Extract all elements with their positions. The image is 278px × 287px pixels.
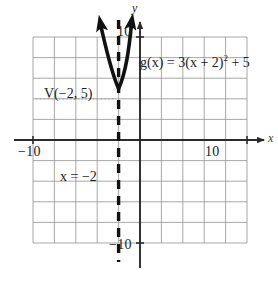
axis-of-symmetry-label: x = −2 bbox=[60, 170, 97, 184]
equation-tail: + 5 bbox=[231, 55, 249, 70]
x-axis-tick-label-positive-ten: 10 bbox=[205, 145, 220, 159]
parabola-figure: y x −10 10 10 −10 V(−2, 5) x = −2 g(x) =… bbox=[0, 0, 278, 287]
function-equation-label: g(x) = 3(x + 2)2 + 5 bbox=[140, 54, 250, 70]
y-axis-tick-label-negative-ten: −10 bbox=[109, 238, 132, 252]
vertex-label: V(−2, 5) bbox=[44, 87, 92, 101]
y-axis-label: y bbox=[132, 2, 137, 14]
equation-prefix: g(x) = 3(x + 2) bbox=[140, 55, 223, 70]
graph-canvas bbox=[0, 0, 278, 287]
y-axis-tick-label-positive-ten: 10 bbox=[117, 25, 132, 39]
x-axis-tick-label-negative-ten: −10 bbox=[18, 145, 41, 159]
x-axis-label: x bbox=[268, 132, 273, 144]
